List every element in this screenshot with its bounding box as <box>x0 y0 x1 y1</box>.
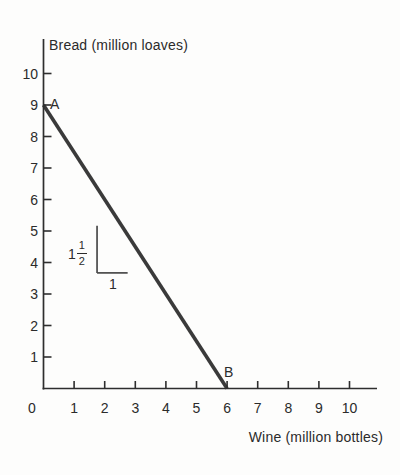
y-tick-label: 8 <box>30 129 38 145</box>
x-tick-label: 3 <box>131 400 139 416</box>
x-tick-label: 8 <box>284 400 292 416</box>
y-tick-label: 9 <box>30 97 38 113</box>
ppf-chart-canvas: 12345678910012345678910 <box>0 0 400 475</box>
fraction-denominator: 2 <box>79 254 85 267</box>
fraction-numerator: 1 <box>77 240 87 254</box>
y-tick-label: 7 <box>30 160 38 176</box>
x-tick-label: 4 <box>162 400 170 416</box>
slope-rise-fraction: 1 2 <box>77 240 87 267</box>
slope-rise-label: 1 1 2 <box>68 240 87 267</box>
x-tick-label: 6 <box>223 400 231 416</box>
x-tick-label: 5 <box>193 400 201 416</box>
y-axis-title: Bread (million loaves) <box>49 37 188 53</box>
point-label-b: B <box>224 364 233 380</box>
y-tick-label: 4 <box>30 255 38 271</box>
slope-rise-whole: 1 <box>68 246 76 262</box>
x-tick-label: 7 <box>254 400 262 416</box>
x-tick-label: 2 <box>101 400 109 416</box>
y-tick-label: 6 <box>30 192 38 208</box>
y-tick-label: 10 <box>22 66 38 82</box>
y-tick-label: 5 <box>30 223 38 239</box>
y-tick-label: 2 <box>30 318 38 334</box>
slope-run-label: 1 <box>109 276 117 292</box>
y-tick-label: 3 <box>30 286 38 302</box>
ppf-figure: 12345678910012345678910 Bread (million l… <box>0 0 400 475</box>
x-axis-title: Wine (million bottles) <box>249 429 383 445</box>
point-label-a: A <box>50 96 59 112</box>
x-tick-label: 0 <box>28 400 36 416</box>
x-tick-label: 10 <box>342 400 358 416</box>
x-tick-label: 9 <box>315 400 323 416</box>
y-tick-label: 1 <box>30 349 38 365</box>
x-tick-label: 1 <box>70 400 78 416</box>
